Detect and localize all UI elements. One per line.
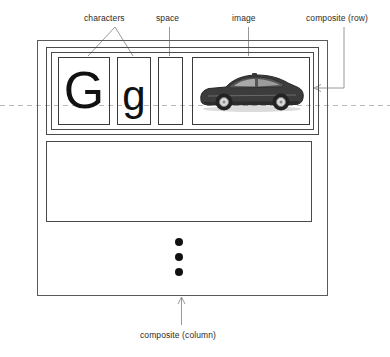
- label-composite-row: composite (row): [306, 13, 368, 23]
- label-image: image: [232, 13, 256, 23]
- label-composite-column: composite (column): [140, 330, 216, 340]
- diagram-canvas: G g: [0, 0, 390, 357]
- vertical-ellipsis: [175, 238, 187, 276]
- car-svg: [198, 66, 306, 116]
- label-space: space: [156, 13, 179, 23]
- label-characters: characters: [84, 13, 125, 23]
- ellipsis-dot: [175, 268, 183, 276]
- space-box: [158, 57, 183, 125]
- character-glyph-lowercase: g: [117, 57, 151, 125]
- character-glyph-uppercase: G: [58, 57, 110, 125]
- ellipsis-dot: [175, 238, 183, 246]
- ellipsis-dot: [175, 253, 183, 261]
- composite-row-box-empty: [46, 141, 312, 222]
- leader-composite-column: [178, 297, 185, 325]
- car-photo-icon: [198, 66, 306, 116]
